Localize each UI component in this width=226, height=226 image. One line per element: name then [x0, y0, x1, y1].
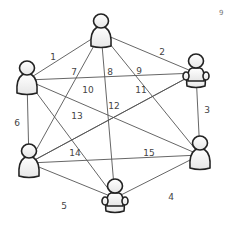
edge-label: 10: [82, 85, 94, 95]
person-icon: [190, 136, 210, 170]
edge-label: 12: [108, 101, 119, 111]
edge-label: 7: [71, 67, 77, 77]
person-icon: [91, 14, 111, 48]
edge-label: 2: [159, 47, 165, 57]
edge-1: [27, 33, 101, 80]
person-sitting-icon: [183, 54, 209, 88]
edge-label: 14: [69, 148, 81, 158]
edge-label: 3: [204, 105, 210, 115]
person-sitting-icon: [102, 179, 128, 213]
edge-2: [101, 33, 196, 73]
edge-label: 9: [136, 66, 142, 76]
edge-4: [115, 155, 200, 198]
edge-label: 4: [168, 192, 174, 202]
edge-label: 5: [61, 201, 67, 211]
edge-label: 13: [71, 111, 82, 121]
edge-label: 1: [50, 52, 56, 62]
person-icon: [19, 144, 39, 178]
edge-label: 15: [143, 148, 154, 158]
edge-label: 6: [14, 118, 20, 128]
edge-label: 8: [107, 67, 113, 77]
nodes-layer: [17, 14, 210, 213]
network-diagram: 9 123456789101112131415: [0, 0, 226, 226]
edge-label: 11: [135, 85, 146, 95]
edge-9: [101, 33, 200, 155]
person-icon: [17, 61, 37, 95]
edge-15: [29, 155, 200, 163]
corner-mark: 9: [219, 9, 223, 17]
